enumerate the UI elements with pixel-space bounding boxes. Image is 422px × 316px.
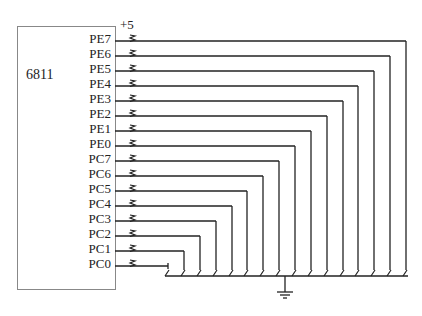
- wire-pe7: [115, 35, 406, 270]
- supply-label: +5: [120, 18, 134, 31]
- pin-label-pe5: PE5: [61, 62, 111, 75]
- wire-pe4: [115, 80, 358, 270]
- wire-pe1: [115, 125, 311, 270]
- switch-bus: [165, 270, 408, 276]
- wire-pe5: [115, 65, 374, 270]
- pin-label-pc5: PC5: [61, 182, 111, 195]
- pin-label-pc6: PC6: [61, 167, 111, 180]
- pin-label-pe1: PE1: [61, 122, 111, 135]
- wire-pc0: [115, 260, 168, 269]
- wire-pc5: [115, 185, 247, 270]
- pin-label-pc3: PC3: [61, 212, 111, 225]
- wire-pc7: [115, 155, 279, 270]
- wire-pc2: [115, 230, 200, 270]
- pin-label-pe6: PE6: [61, 47, 111, 60]
- pin-label-pc0: PC0: [61, 257, 111, 270]
- pin-label-pc2: PC2: [61, 227, 111, 240]
- pin-label-pe4: PE4: [61, 77, 111, 90]
- ground-icon: [277, 276, 293, 298]
- wire-pe3: [115, 95, 343, 270]
- pin-label-pe7: PE7: [61, 32, 111, 45]
- wire-pc3: [115, 215, 216, 270]
- pin-label-pe3: PE3: [61, 92, 111, 105]
- pin-label-pc1: PC1: [61, 242, 111, 255]
- pin-label-pe2: PE2: [61, 107, 111, 120]
- chip-name: 6811: [26, 68, 53, 81]
- wire-pe6: [115, 50, 390, 270]
- wire-pc4: [115, 200, 232, 270]
- wire-pc6: [115, 170, 263, 270]
- pin-label-pc4: PC4: [61, 197, 111, 210]
- pin-label-pc7: PC7: [61, 152, 111, 165]
- pin-label-pe0: PE0: [61, 137, 111, 150]
- pin-wires: [115, 35, 406, 270]
